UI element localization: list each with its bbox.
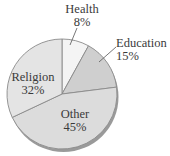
label-religion: Religion 32% bbox=[8, 71, 58, 97]
label-other: Other 45% bbox=[55, 108, 95, 134]
label-education: Education 15% bbox=[116, 37, 168, 63]
label-religion-pct: 32% bbox=[8, 84, 58, 97]
label-education-pct: 15% bbox=[116, 50, 168, 63]
label-health-pct: 8% bbox=[62, 16, 102, 29]
label-other-pct: 45% bbox=[55, 121, 95, 134]
label-health: Health 8% bbox=[62, 3, 102, 29]
education-leader-line bbox=[99, 47, 116, 62]
